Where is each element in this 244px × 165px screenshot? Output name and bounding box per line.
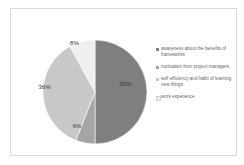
- slice-label: 6%: [73, 123, 82, 129]
- pie-chart: [42, 39, 148, 145]
- legend-item: awareness about the benefits of framewor…: [156, 46, 236, 58]
- legend-swatch: [156, 78, 159, 81]
- slice-label: 36%: [39, 84, 51, 90]
- legend: awareness about the benefits of framewor…: [156, 46, 236, 106]
- slice-label: 50%: [120, 81, 132, 87]
- legend-swatch: [156, 66, 159, 69]
- legend-item: self efficiency and habit of learning ne…: [156, 76, 236, 88]
- slice-label: 8%: [70, 40, 79, 46]
- legend-swatch: [156, 48, 159, 51]
- legend-swatch: [156, 96, 161, 101]
- legend-label: awareness about the benefits of framewor…: [161, 46, 226, 57]
- pie-slice: [95, 40, 147, 144]
- legend-item: work experience: [156, 94, 236, 100]
- chart-frame: 50%6%36%8% awareness about the benefits …: [10, 8, 237, 156]
- legend-item: motivation from project managers: [156, 64, 236, 70]
- legend-label: work experience: [161, 94, 194, 99]
- legend-label: self efficiency and habit of learning ne…: [161, 76, 231, 87]
- legend-label: motivation from project managers: [161, 64, 229, 69]
